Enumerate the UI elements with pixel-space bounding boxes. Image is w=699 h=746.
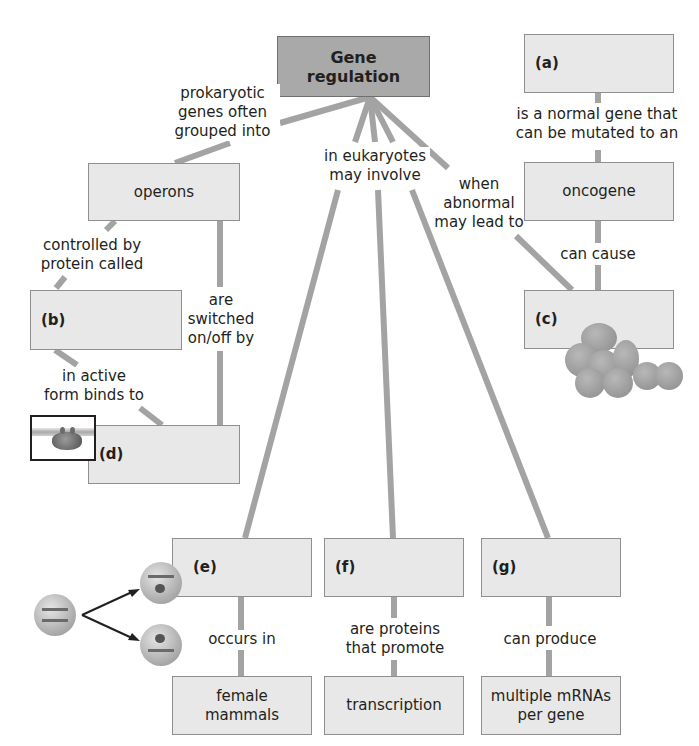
node-b-label: (b) (41, 311, 65, 330)
node-female-mammals[interactable]: female mammals (172, 676, 312, 735)
arrow-head-icon (128, 589, 140, 597)
node-transcription[interactable]: transcription (324, 676, 464, 735)
link-text: is a normal gene that (502, 105, 692, 124)
link-text: protein called (28, 255, 156, 274)
link-text: are proteins (340, 620, 450, 639)
link-text: form binds to (38, 386, 150, 405)
node-e[interactable]: (e) (172, 538, 312, 597)
tumor-cells-icon (555, 318, 685, 403)
link-text: grouped into (165, 122, 280, 141)
node-b[interactable]: (b) (30, 290, 182, 350)
link-text: that promote (340, 639, 450, 658)
link-proteins-promote: are proteins that promote (340, 620, 450, 658)
link-text: can produce (504, 630, 597, 648)
cell-icon (34, 594, 76, 636)
node-operons-label: operons (134, 183, 194, 202)
link-text: prokaryotic (165, 84, 280, 103)
node-d-label: (d) (99, 445, 123, 464)
link-switched-on-off: are switched on/off by (185, 291, 257, 348)
link-controlled-by: controlled by protein called (28, 236, 156, 274)
arrow-lines (82, 592, 132, 638)
node-d[interactable]: (d) (88, 425, 240, 484)
node-oncogene[interactable]: oncogene (524, 162, 674, 221)
link-can-produce: can produce (500, 630, 600, 649)
link-text: on/off by (185, 329, 257, 348)
node-label-line: multiple mRNAs (491, 687, 611, 706)
node-g[interactable]: (g) (481, 538, 621, 597)
node-operons[interactable]: operons (88, 163, 240, 221)
link-text: switched (185, 310, 257, 329)
link-can-cause: can cause (555, 245, 641, 264)
node-multiple-mrnas[interactable]: multiple mRNAs per gene (481, 676, 621, 735)
link-when-abnormal: when abnormal may lead to (434, 175, 524, 232)
link-text: may involve (320, 166, 430, 185)
node-label-line: per gene (517, 706, 584, 725)
node-a[interactable]: (a) (524, 34, 674, 93)
link-normal-gene: is a normal gene that can be mutated to … (502, 105, 692, 143)
cell-icon (140, 562, 182, 604)
node-f-label: (f) (335, 558, 355, 577)
link-occurs-in: occurs in (200, 630, 284, 649)
node-a-label: (a) (535, 54, 559, 73)
node-e-label: (e) (183, 558, 217, 577)
node-transcription-label: transcription (346, 696, 441, 715)
link-active-form: in active form binds to (38, 367, 150, 405)
link-text: when (434, 175, 524, 194)
link-text: occurs in (208, 630, 276, 648)
cell-icon (140, 624, 182, 666)
link-text: are (185, 291, 257, 310)
link-text: can cause (560, 245, 636, 263)
link-text: controlled by (28, 236, 156, 255)
root-label: Gene regulation (304, 48, 404, 86)
link-text: can be mutated to an (502, 124, 692, 143)
node-label-line: female (216, 687, 268, 706)
root-node-gene-regulation: Gene regulation (277, 36, 430, 97)
node-oncogene-label: oncogene (562, 182, 636, 201)
link-prokaryotic: prokaryotic genes often grouped into (165, 84, 280, 141)
link-text: may lead to (434, 213, 524, 232)
node-f[interactable]: (f) (324, 538, 464, 597)
node-label-line: mammals (205, 706, 279, 725)
link-in-eukaryotes: in eukaryotes may involve (320, 147, 430, 185)
link-text: genes often (165, 103, 280, 122)
concept-map: Gene regulation (a) is a normal gene tha… (0, 0, 699, 746)
repressor-bound-dna-icon (30, 415, 96, 461)
node-g-label: (g) (492, 558, 516, 577)
link-text: in eukaryotes (320, 147, 430, 166)
arrow-head-icon (128, 633, 140, 641)
link-text: abnormal (434, 194, 524, 213)
link-text: in active (38, 367, 150, 386)
